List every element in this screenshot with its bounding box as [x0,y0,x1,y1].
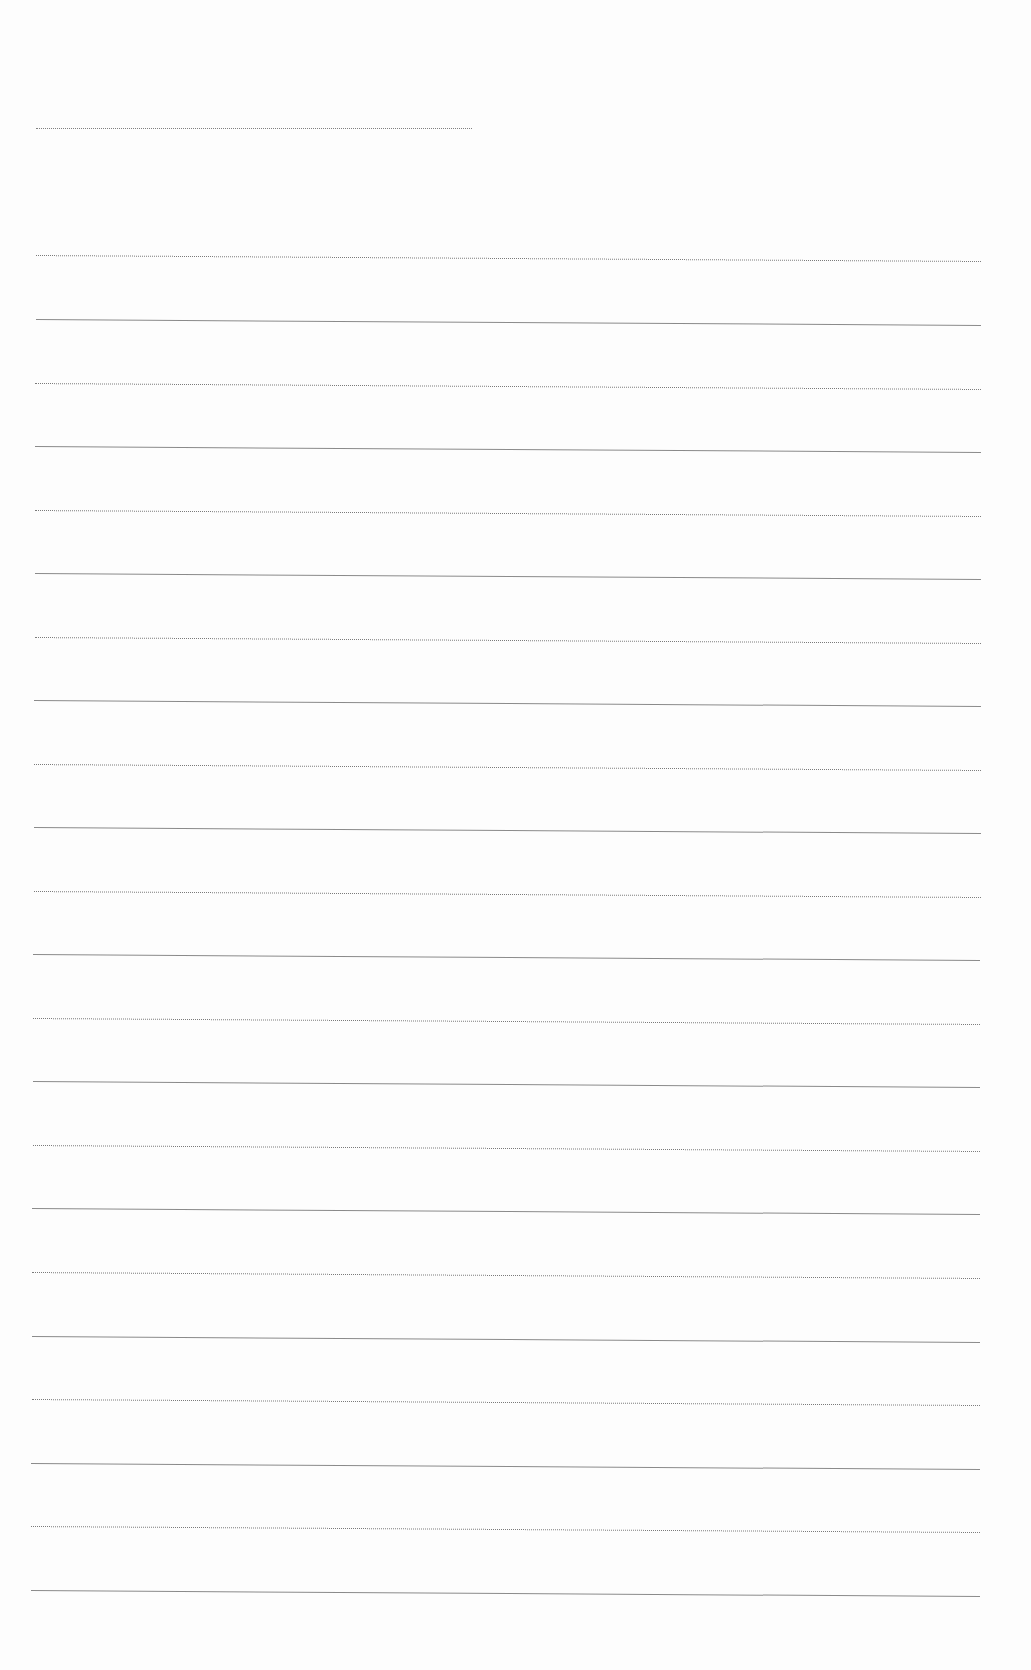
ruled-line [31,1463,980,1470]
ruled-line [33,1081,980,1088]
ruled-line [35,637,981,644]
ruled-line [32,1272,980,1279]
ruled-line [35,383,981,390]
ruled-line [36,319,981,326]
ruled-line [31,1526,980,1533]
ruled-line [31,1590,980,1597]
ruled-line [35,510,981,517]
ruled-line [34,700,981,707]
ruled-line [33,1018,980,1025]
ruled-line [32,1399,980,1406]
ruled-line [35,573,981,580]
ruled-line [32,1208,980,1215]
ruled-line [35,446,981,453]
ruled-line [33,1145,980,1152]
ruled-line [34,764,981,771]
ruled-line [33,954,980,961]
ruled-line [32,1336,980,1343]
ruled-page [0,0,1031,1670]
ruled-line [36,255,981,262]
ruled-line [34,891,981,898]
ruled-line [34,827,981,834]
header-line [36,128,472,129]
